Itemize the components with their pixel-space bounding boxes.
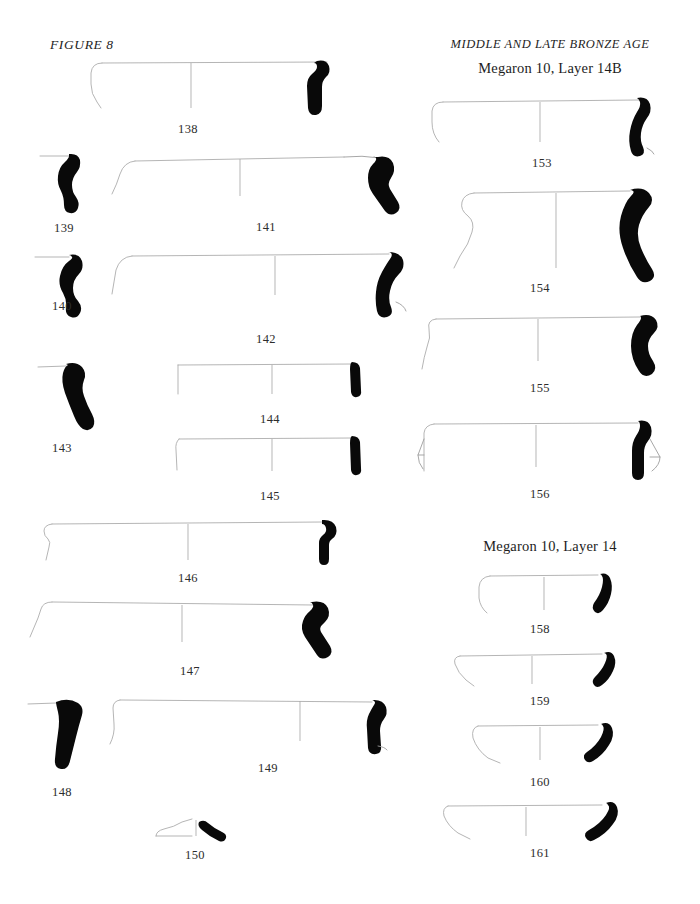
object-number-145: 145 bbox=[230, 489, 310, 504]
vessel-drawing-159 bbox=[448, 648, 640, 692]
object-number-148: 148 bbox=[32, 785, 92, 800]
figure-plate: FIGURE 8 MIDDLE AND LATE BRONZE AGE Mega… bbox=[0, 0, 700, 904]
vessel-drawing-146 bbox=[38, 518, 350, 570]
object-number-153: 153 bbox=[502, 156, 582, 171]
vessel-drawing-145 bbox=[172, 434, 368, 482]
object-number-150: 150 bbox=[155, 848, 235, 863]
vessel-drawing-139 bbox=[38, 150, 96, 212]
object-number-147: 147 bbox=[150, 664, 230, 679]
object-number-142: 142 bbox=[226, 332, 306, 347]
object-number-146: 146 bbox=[148, 571, 228, 586]
vessel-drawing-153 bbox=[425, 96, 665, 154]
object-number-143: 143 bbox=[32, 441, 92, 456]
vessel-drawing-156 bbox=[418, 417, 670, 487]
vessel-drawing-161 bbox=[440, 800, 640, 846]
vessel-drawing-144 bbox=[172, 360, 368, 404]
section-heading-layer-14b: Megaron 10, Layer 14B bbox=[420, 60, 680, 77]
object-number-160: 160 bbox=[500, 775, 580, 790]
vessel-drawing-158 bbox=[472, 570, 632, 618]
object-number-154: 154 bbox=[500, 281, 580, 296]
object-number-149: 149 bbox=[228, 761, 308, 776]
object-number-156: 156 bbox=[500, 487, 580, 502]
running-head: MIDDLE AND LATE BRONZE AGE bbox=[420, 37, 680, 52]
object-number-144: 144 bbox=[230, 412, 310, 427]
figure-label: FIGURE 8 bbox=[50, 37, 114, 53]
object-number-161: 161 bbox=[500, 846, 580, 861]
vessel-drawing-160 bbox=[468, 720, 638, 768]
vessel-drawing-155 bbox=[420, 313, 670, 379]
object-number-158: 158 bbox=[500, 622, 580, 637]
vessel-drawing-141 bbox=[112, 152, 418, 214]
vessel-drawing-142 bbox=[110, 250, 428, 312]
vessel-drawing-149 bbox=[110, 694, 410, 754]
section-heading-layer-14: Megaron 10, Layer 14 bbox=[420, 538, 680, 555]
vessel-drawing-143 bbox=[38, 358, 118, 438]
object-number-139: 139 bbox=[34, 221, 94, 236]
vessel-drawing-138 bbox=[45, 58, 335, 120]
object-number-155: 155 bbox=[500, 381, 580, 396]
vessel-drawing-148 bbox=[28, 694, 118, 784]
object-number-141: 141 bbox=[226, 220, 306, 235]
vessel-drawing-150 bbox=[152, 818, 236, 844]
object-number-159: 159 bbox=[500, 694, 580, 709]
vessel-drawing-147 bbox=[30, 596, 348, 652]
object-number-138: 138 bbox=[148, 122, 228, 137]
vessel-drawing-154 bbox=[448, 186, 668, 276]
object-number-140: 140 bbox=[32, 299, 92, 314]
